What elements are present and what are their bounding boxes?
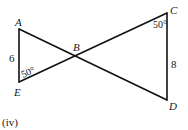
point-label-B: B [73, 41, 80, 53]
point-label-D: D [168, 100, 177, 112]
geometry-diagram: A B C D E 6 8 50° 50° (iv) [0, 0, 188, 130]
segment-AD [19, 29, 167, 100]
point-label-A: A [14, 16, 22, 28]
length-label-CD: 8 [171, 58, 177, 70]
angle-label-C: 50° [153, 19, 167, 30]
segment-EC [19, 13, 167, 82]
figure-caption: (iv) [2, 116, 18, 129]
angle-label-E: 50° [19, 64, 36, 80]
length-label-AE: 6 [9, 52, 15, 64]
point-label-C: C [170, 4, 178, 16]
point-label-E: E [13, 86, 21, 98]
